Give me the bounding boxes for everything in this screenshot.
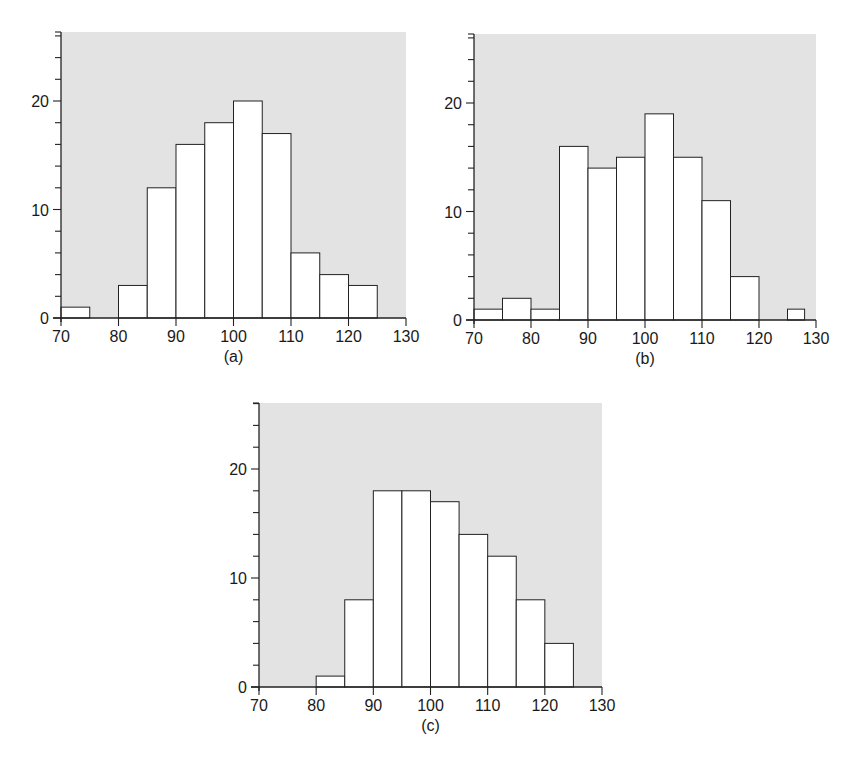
x-tick-label: 130 xyxy=(589,697,616,714)
y-tick-label: 0 xyxy=(238,679,247,696)
histogram-bar xyxy=(488,556,517,687)
panel-caption: (c) xyxy=(421,717,440,734)
x-tick-label: 90 xyxy=(364,697,382,714)
x-tick-label: 70 xyxy=(250,697,268,714)
x-tick-label: 110 xyxy=(475,697,501,714)
histogram-bar xyxy=(373,491,402,687)
histogram-bar xyxy=(345,600,374,687)
x-tick-label: 120 xyxy=(531,697,558,714)
histogram-bar xyxy=(402,491,431,687)
x-tick-label: 100 xyxy=(417,697,444,714)
histogram-bar xyxy=(459,534,488,687)
x-tick-label: 80 xyxy=(307,697,325,714)
y-tick-label: 20 xyxy=(229,461,247,478)
histogram-bar xyxy=(545,643,574,687)
histogram-bar xyxy=(431,502,460,687)
histogram-bar xyxy=(516,600,545,687)
y-tick-label: 10 xyxy=(229,570,247,587)
histogram-svg: 01020708090100110120130(c) xyxy=(0,0,853,773)
histogram-bar xyxy=(316,676,345,687)
